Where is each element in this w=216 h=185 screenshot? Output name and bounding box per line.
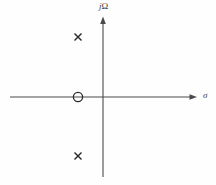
imaginary-axis-label: jΩ [99, 2, 108, 11]
pole-marker-upper [75, 34, 82, 41]
pole-marker-lower [75, 153, 82, 160]
imaginary-axis-arrowhead [100, 17, 106, 25]
pole-zero-figure: jΩ σ [0, 0, 216, 185]
imaginary-axis-label-omega: Ω [102, 1, 109, 11]
real-axis-label: σ [203, 91, 207, 100]
pole-zero-canvas [0, 0, 216, 185]
real-axis-arrowhead [190, 94, 198, 100]
